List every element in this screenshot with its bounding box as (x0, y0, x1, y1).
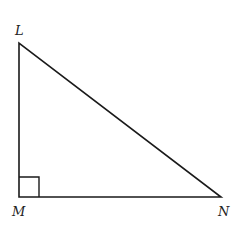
triangle-diagram: L M N (0, 0, 240, 225)
vertex-label-m: M (11, 204, 26, 219)
triangle-lmn (19, 43, 221, 197)
vertex-label-n: N (217, 204, 230, 219)
right-angle-marker-icon (19, 177, 39, 197)
vertex-label-l: L (14, 23, 24, 38)
